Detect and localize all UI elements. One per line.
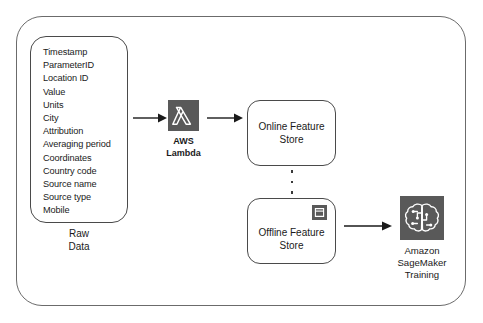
field-item: Coordinates <box>43 152 123 165</box>
amazon-sagemaker-icon <box>400 196 444 240</box>
online-feature-store-label: Online Feature Store <box>248 120 335 146</box>
raw-data-caption: Raw Data <box>30 228 128 253</box>
aws-lambda-icon <box>168 100 199 131</box>
online-feature-store-label-line2: Store <box>248 133 335 146</box>
connector-dot <box>291 170 294 173</box>
arrow-raw-data-to-lambda <box>133 113 167 123</box>
aws-lambda-caption-line1: AWS <box>150 136 217 148</box>
offline-feature-store-label-line1: Offline Feature <box>248 226 335 239</box>
offline-feature-store-label: Offline Feature Store <box>248 226 335 252</box>
field-item: Location ID <box>43 72 123 85</box>
amazon-sagemaker-caption: Amazon SageMaker Training <box>385 245 459 281</box>
field-item: Source name <box>43 178 123 191</box>
field-item: City <box>43 112 123 125</box>
field-item: Units <box>43 99 123 112</box>
connector-dot <box>291 191 294 194</box>
field-item: Averaging period <box>43 138 123 151</box>
field-item: Country code <box>43 165 123 178</box>
arrow-lambda-to-online-store <box>207 113 243 123</box>
offline-feature-store-label-line2: Store <box>248 239 335 252</box>
aws-lambda-caption: AWS Lambda <box>150 136 217 159</box>
raw-data-caption-line2: Data <box>30 241 128 254</box>
field-item: Value <box>43 86 123 99</box>
raw-data-box: Timestamp ParameterID Location ID Value … <box>30 36 128 223</box>
field-item: Source type <box>43 191 123 204</box>
online-feature-store-box: Online Feature Store <box>247 100 336 166</box>
field-item: Mobile <box>43 204 123 217</box>
amazon-sagemaker-caption-line1: Amazon <box>385 245 459 257</box>
raw-data-caption-line1: Raw <box>30 228 128 241</box>
aws-lambda-caption-line2: Lambda <box>150 148 217 160</box>
field-item: ParameterID <box>43 59 123 72</box>
amazon-sagemaker-caption-line3: Training <box>385 269 459 281</box>
amazon-sagemaker-caption-line2: SageMaker <box>385 257 459 269</box>
arrow-offline-store-to-sagemaker <box>344 221 392 231</box>
field-item: Attribution <box>43 125 123 138</box>
connector-dot <box>291 181 294 184</box>
field-item: Timestamp <box>43 46 123 59</box>
diagram-canvas: Timestamp ParameterID Location ID Value … <box>0 0 483 323</box>
offline-feature-store-box: Offline Feature Store <box>247 198 336 264</box>
s3-bucket-icon <box>312 205 327 220</box>
online-feature-store-label-line1: Online Feature <box>248 120 335 133</box>
dotted-connector-between-stores <box>290 170 294 194</box>
raw-data-field-list: Timestamp ParameterID Location ID Value … <box>43 46 123 218</box>
